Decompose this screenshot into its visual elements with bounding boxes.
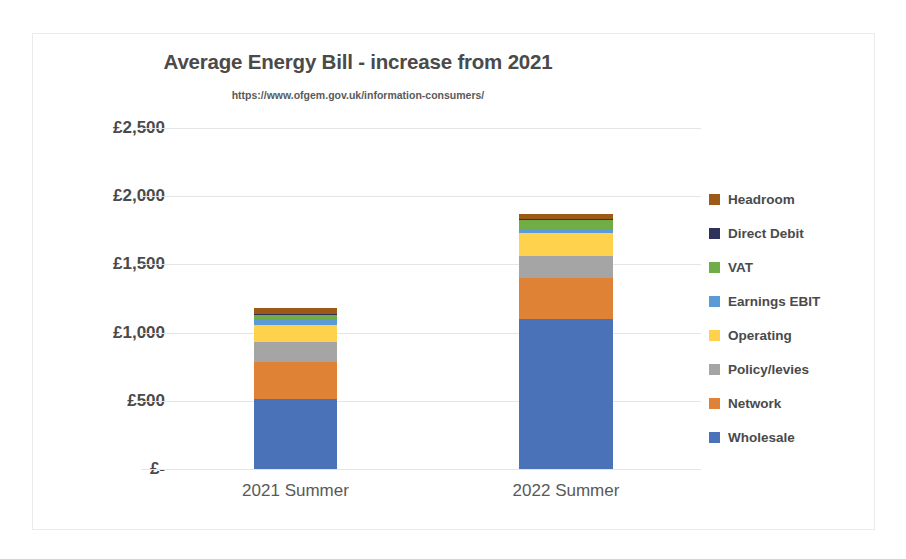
x-axis-category-label: 2021 Summer	[214, 481, 377, 501]
legend-swatch-icon	[709, 398, 720, 409]
legend-item-label: Operating	[728, 328, 792, 343]
bar-segment[interactable]	[254, 362, 337, 399]
plot-area	[141, 128, 701, 469]
bar-segment[interactable]	[254, 342, 337, 362]
gridline	[141, 401, 701, 402]
chart-container: Average Energy Bill - increase from 2021…	[32, 33, 875, 530]
bar-segment[interactable]	[254, 399, 337, 469]
bar-segment[interactable]	[519, 214, 613, 219]
gridline	[141, 196, 701, 197]
legend-item[interactable]: Direct Debit	[709, 216, 874, 250]
legend-item-label: Headroom	[728, 192, 795, 207]
gridline	[141, 128, 701, 129]
legend-item[interactable]: Wholesale	[709, 420, 874, 454]
legend-swatch-icon	[709, 262, 720, 273]
gridline	[141, 333, 701, 334]
legend-item[interactable]: VAT	[709, 250, 874, 284]
chart-subtitle-source-url: https://www.ofgem.gov.uk/information-con…	[33, 89, 683, 101]
legend-item[interactable]: Network	[709, 386, 874, 420]
bar-segment[interactable]	[519, 220, 613, 229]
legend-item-label: VAT	[728, 260, 753, 275]
gridline	[141, 264, 701, 265]
bar-segment[interactable]	[519, 319, 613, 469]
legend-swatch-icon	[709, 432, 720, 443]
legend-item[interactable]: Policy/levies	[709, 352, 874, 386]
bar-segment[interactable]	[519, 256, 613, 278]
legend-item-label: Earnings EBIT	[728, 294, 820, 309]
chart-title: Average Energy Bill - increase from 2021	[33, 50, 683, 74]
legend-item-label: Policy/levies	[728, 362, 809, 377]
legend-swatch-icon	[709, 330, 720, 341]
bar-segment[interactable]	[254, 314, 337, 315]
legend-item[interactable]: Earnings EBIT	[709, 284, 874, 318]
bar-segment[interactable]	[254, 315, 337, 320]
bar-column[interactable]	[519, 214, 613, 469]
legend-swatch-icon	[709, 364, 720, 375]
x-axis-category-label: 2022 Summer	[479, 481, 653, 501]
legend-swatch-icon	[709, 194, 720, 205]
bar-column[interactable]	[254, 308, 337, 469]
legend-item-label: Direct Debit	[728, 226, 804, 241]
bar-segment[interactable]	[519, 278, 613, 318]
bar-segment[interactable]	[254, 320, 337, 324]
chart-legend: HeadroomDirect DebitVATEarnings EBITOper…	[709, 182, 874, 454]
bar-segment[interactable]	[519, 229, 613, 233]
bar-segment[interactable]	[519, 219, 613, 220]
bar-segment[interactable]	[254, 325, 337, 342]
legend-item[interactable]: Headroom	[709, 182, 874, 216]
bar-segment[interactable]	[519, 233, 613, 256]
legend-item-label: Network	[728, 396, 781, 411]
legend-swatch-icon	[709, 296, 720, 307]
legend-item-label: Wholesale	[728, 430, 795, 445]
legend-swatch-icon	[709, 228, 720, 239]
legend-item[interactable]: Operating	[709, 318, 874, 352]
gridline	[141, 469, 701, 470]
bar-segment[interactable]	[254, 308, 337, 314]
